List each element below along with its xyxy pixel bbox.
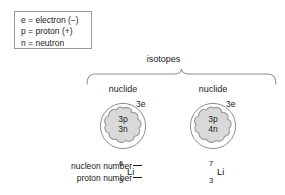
nuclide-symbol-lithium-7: 7 3 Li [204,159,248,189]
electron-shell-left [99,102,147,150]
nuclide-symbol-lithium-6: 6 3 Li [114,159,158,189]
atom-shell-icon [99,102,147,150]
legend-line-electron: e = electron (−) [21,15,91,26]
electron-count-label-left: 3e [136,99,145,109]
grouping-brace [84,68,279,85]
element-symbol-right: Li [217,166,224,177]
nucleon-number-value-left: 6 [119,159,123,168]
proton-number-value-left: 3 [119,176,123,185]
atom-lithium-7: nuclide 3e 3p 4n [165,84,261,160]
electron-count-label-right: 3e [226,99,235,109]
isotopes-title-text: isotopes [147,54,181,64]
nuclide-label-left: nuclide [75,84,171,94]
nuclide-label-right: nuclide [165,84,261,94]
electron-shell-right [189,102,237,150]
atom-lithium-6: nuclide 3e 3p 3n [75,84,171,160]
isotopes-diagram: e = electron (−) p = proton (+) n = neut… [0,0,285,195]
proton-number-value-right: 3 [209,176,213,185]
legend-key-box: e = electron (−) p = proton (+) n = neut… [14,11,92,49]
atom-shell-icon [189,102,237,150]
grouping-brace-icon [84,68,279,85]
element-symbol-left: Li [127,166,134,177]
nucleon-number-value-right: 7 [209,159,213,168]
legend-line-neutron: n = neutron [21,38,91,49]
isotopes-title: isotopes [0,54,285,64]
legend-line-proton: p = proton (+) [21,26,91,37]
